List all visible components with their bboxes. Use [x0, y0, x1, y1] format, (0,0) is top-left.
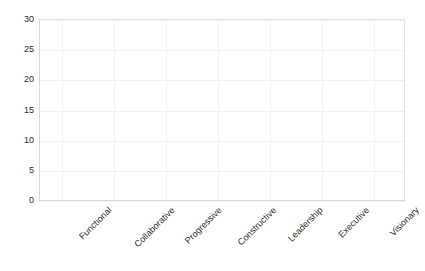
x-tick-label-functional: Functional — [77, 205, 113, 241]
x-tick-label-collaborative: Collaborative — [132, 205, 176, 249]
x-tick-label-progressive: Progressive — [183, 205, 224, 246]
x-tick-label-constructive: Constructive — [236, 205, 278, 247]
x-tick-label-executive: Executive — [336, 205, 371, 240]
x-axis-tick-labels: Functional Collaborative Progressive Con… — [0, 0, 425, 271]
chart-screenshot: 30 25 20 15 10 5 0 Functional Collaborat… — [0, 0, 425, 271]
x-tick-label-leadership: Leadership — [286, 205, 325, 244]
x-tick-label-visionary: Visionary — [388, 205, 421, 238]
